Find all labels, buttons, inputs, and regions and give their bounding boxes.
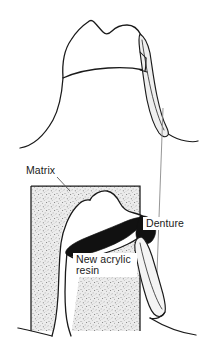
upper-gum-outline: [20, 78, 63, 148]
matrix-label: Matrix: [26, 164, 56, 176]
denture-label: Denture: [146, 217, 184, 229]
upper-panel: [20, 21, 198, 149]
dental-illustration-figure: Matrix Denture New acrylic resin: [0, 0, 215, 344]
upper-tooth-crown: [63, 21, 146, 79]
figure-canvas: Matrix Denture New acrylic resin: [0, 0, 215, 344]
lower-gum-outline-right: [150, 318, 196, 335]
new-acrylic-resin-label-line2: resin: [76, 264, 99, 276]
